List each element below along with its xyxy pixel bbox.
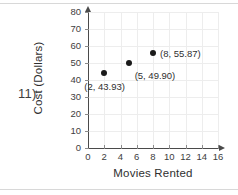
x-axis-title: Movies Rented [88,167,218,179]
gridline-horizontal [88,97,218,98]
y-axis-tick-label: 80 [59,7,81,17]
y-axis-tick-label: 30 [59,92,81,102]
gridline-horizontal [88,12,218,13]
y-axis-tick-label: 40 [59,75,81,85]
x-axis-tick [169,145,170,149]
gridline-horizontal [88,29,218,30]
y-axis-tick-label: 10 [59,126,81,136]
y-axis-tick [85,131,89,132]
x-axis-tick [137,145,138,149]
scatter-chart: 01020304050607080 0246810121416 (2, 43.9… [0,0,238,195]
x-axis-tick [218,145,219,149]
x-axis-tick [104,145,105,149]
gridline-horizontal [88,114,218,115]
x-axis-tick [202,145,203,149]
x-axis-tick [186,145,187,149]
data-point-label: (5, 49.90) [135,71,176,81]
y-axis-tick-label: 60 [59,41,81,51]
y-axis-tick [85,12,89,13]
x-axis-tick [121,145,122,149]
y-axis-title: Cost (Dollars) [32,18,44,138]
gridline-horizontal [88,46,218,47]
y-axis-tick [85,63,89,64]
data-point [126,60,132,66]
gridline-horizontal [88,63,218,64]
y-axis-tick-label: 50 [59,58,81,68]
y-axis-tick-label: 0 [59,143,81,153]
y-axis-tick [85,29,89,30]
gridline-horizontal [88,131,218,132]
y-axis-tick [85,114,89,115]
x-axis-tick [153,145,154,149]
data-point-label: (8, 55.87) [160,49,201,59]
y-axis-tick [85,97,89,98]
x-axis-tick-label: 16 [209,152,227,162]
y-axis-tick [85,148,89,149]
y-axis-tick-label: 70 [59,24,81,34]
gridline-vertical [218,12,219,148]
y-axis-tick [85,46,89,47]
y-axis-tick-label: 20 [59,109,81,119]
data-point [150,50,156,56]
data-point-label: (2, 43.93) [84,82,125,92]
